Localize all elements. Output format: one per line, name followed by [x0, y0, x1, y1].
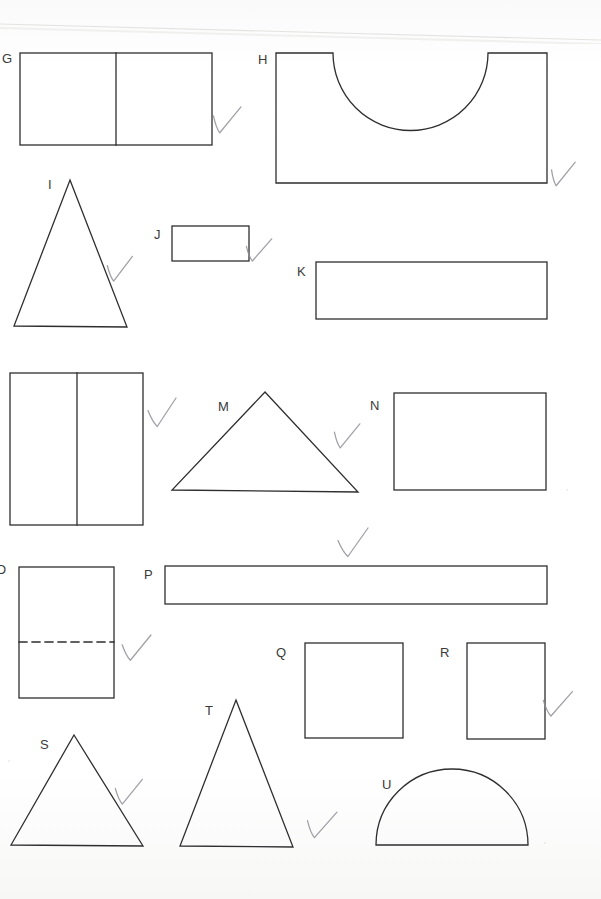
checkmark-o	[121, 633, 151, 661]
checkmark-p	[338, 528, 368, 557]
shape-label-j: J	[154, 228, 161, 241]
checkmark-t	[305, 808, 337, 840]
checkmark-stroke	[549, 158, 575, 188]
shape-label-s: S	[40, 738, 49, 751]
shape-label-t: T	[205, 704, 213, 717]
checkmark-j	[244, 235, 271, 263]
shape-label-p: P	[144, 568, 153, 581]
checkmarks-layer	[0, 0, 601, 899]
worksheet-page: GHIJKMNOPQRSTU	[0, 0, 601, 899]
shape-label-o: O	[0, 563, 6, 576]
scan-speckle	[8, 760, 10, 762]
checkmark-r	[542, 689, 573, 718]
checkmark-i	[106, 254, 133, 283]
shape-label-r: R	[440, 646, 450, 659]
shape-label-k: K	[297, 265, 306, 278]
checkmark-stroke	[148, 398, 176, 427]
checkmark-stroke	[121, 633, 151, 661]
shape-label-q: Q	[276, 646, 286, 659]
shape-label-g: G	[2, 52, 12, 65]
checkmark-stroke	[542, 689, 573, 718]
checkmark-m	[332, 420, 359, 450]
shape-label-h: H	[258, 53, 268, 66]
scan-speckle	[544, 842, 546, 844]
checkmark-stroke	[106, 254, 133, 283]
shape-label-n: N	[370, 399, 380, 412]
checkmark-stroke	[338, 528, 368, 557]
scan-speckle	[566, 489, 568, 491]
shape-label-m: M	[218, 400, 229, 413]
checkmark-stroke	[305, 808, 337, 840]
shape-label-i: I	[48, 178, 52, 191]
shape-label-u: U	[382, 778, 392, 791]
checkmark-h	[549, 158, 575, 188]
checkmark-l	[148, 398, 176, 427]
checkmark-stroke	[114, 777, 143, 806]
checkmark-stroke	[332, 420, 359, 450]
checkmark-g	[211, 103, 241, 135]
checkmark-s	[114, 777, 143, 806]
checkmark-stroke	[211, 103, 241, 135]
checkmark-stroke	[244, 235, 271, 263]
